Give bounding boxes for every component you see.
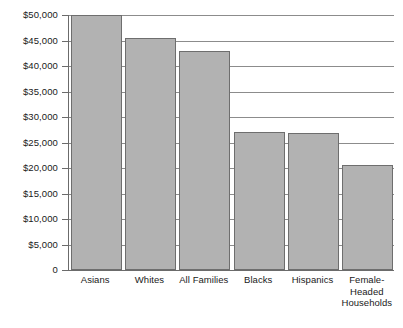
x-axis-labels: AsiansWhitesAll FamiliesBlacksHispanicsF… — [68, 274, 394, 328]
y-axis-tick-label: $25,000 — [0, 138, 58, 148]
x-axis-tick-label-line: Households — [331, 297, 403, 309]
y-axis-tick — [62, 219, 68, 220]
y-axis-tick — [62, 245, 68, 246]
y-axis-tick-label: $40,000 — [0, 61, 58, 71]
y-axis-tick — [62, 117, 68, 118]
y-axis-tick — [62, 168, 68, 169]
y-axis-tick-label: $35,000 — [0, 87, 58, 97]
y-axis-tick — [62, 194, 68, 195]
bar-chart: $50,000$45,000$40,000$35,000$30,000$25,0… — [0, 0, 403, 328]
x-axis-tick-label-line: Female- — [331, 274, 403, 286]
bar — [125, 38, 176, 270]
bar — [342, 165, 393, 270]
x-axis-tick-label: Female-HeadedHouseholds — [331, 274, 403, 309]
y-axis-tick — [62, 143, 68, 144]
bar — [234, 132, 285, 270]
y-axis-tick — [62, 92, 68, 93]
y-axis-tick-label: $20,000 — [0, 163, 58, 173]
y-axis-tick-label: $15,000 — [0, 189, 58, 199]
bars-layer — [68, 15, 394, 271]
x-axis-tick-label-line: Headed — [331, 286, 403, 298]
y-axis-tick-label: $10,000 — [0, 214, 58, 224]
bar — [288, 133, 339, 270]
y-axis-tick-label: $50,000 — [0, 10, 58, 20]
y-axis-tick — [62, 41, 68, 42]
y-axis-tick-label: $30,000 — [0, 112, 58, 122]
y-axis-labels: $50,000$45,000$40,000$35,000$30,000$25,0… — [0, 0, 58, 328]
y-axis-tick — [62, 270, 68, 271]
y-axis-tick-label: 0 — [0, 265, 58, 275]
bar — [71, 15, 122, 270]
y-axis-tick — [62, 15, 68, 16]
y-axis-tick-label: $45,000 — [0, 36, 58, 46]
bar — [179, 51, 230, 270]
y-axis-tick — [62, 66, 68, 67]
y-axis-tick-label: $5,000 — [0, 240, 58, 250]
